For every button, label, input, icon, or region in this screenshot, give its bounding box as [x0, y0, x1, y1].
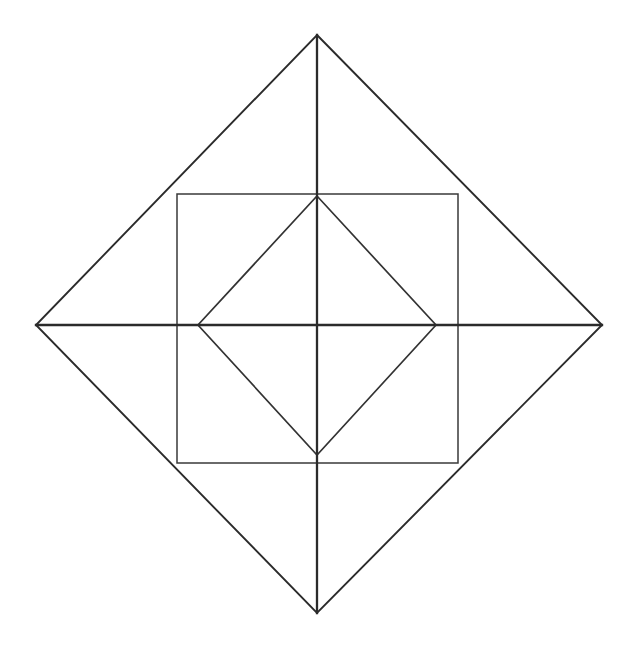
figure-canvas — [0, 0, 631, 651]
geometric-figure-svg — [0, 0, 631, 651]
